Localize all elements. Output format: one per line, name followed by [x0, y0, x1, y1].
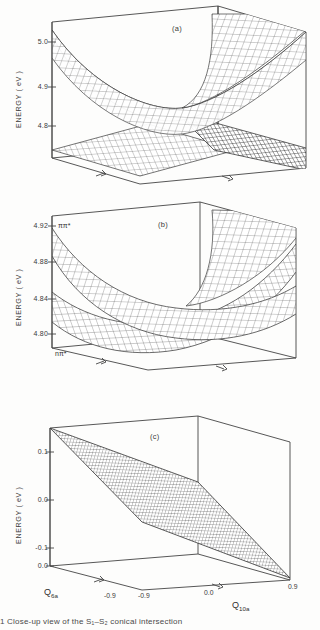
panel-b: ENERGY ( eV ) 4.92 4.88 4.84 4.80 ππ* nπ… [0, 198, 320, 394]
panel-b-state-label-lower: nπ* [55, 350, 66, 357]
x-axis-label-q6a-text: Q [44, 587, 51, 597]
panel-b-ytick-2: 4.84 [18, 295, 48, 302]
figure-conical-intersection: ENERGY ( eV ) 5.0 4.9 4.8 (a) [0, 0, 320, 630]
panel-c-ytick-2: -0.1 [18, 544, 48, 551]
panel-a-xticks [96, 170, 233, 181]
x-axis-label-q10a-text: Q [232, 600, 239, 610]
panel-a-tag: (a) [172, 24, 182, 33]
x-right-tick-0: -0.9 [138, 592, 150, 599]
panel-c: ENERGY ( eV ) 0.1 0.0 -0.1 0.0 (c) [0, 394, 320, 618]
panel-b-ytick-3: 4.80 [18, 330, 48, 337]
panel-a-plot [0, 0, 320, 198]
panel-c-ytick-0: 0.1 [22, 448, 48, 455]
panel-c-plot [0, 394, 320, 618]
x-right-tick-1: 0.0 [204, 589, 213, 596]
panel-c-plane [50, 428, 290, 578]
figure-caption: 1 Close-up view of the S₁–S₂ conical int… [0, 617, 320, 630]
panel-a-ytick-0: 5.0 [24, 38, 48, 45]
panel-a-ytick-2: 4.8 [24, 122, 48, 129]
panel-a: ENERGY ( eV ) 5.0 4.9 4.8 (a) [0, 0, 320, 198]
x-right-tick-2: 0.9 [288, 583, 297, 590]
panel-b-tag: (b) [158, 220, 168, 229]
panel-c-tag: (c) [150, 432, 160, 441]
panel-a-yaxis [48, 22, 56, 158]
x-axis-label-q6a-sub: 6a [51, 592, 58, 599]
x-axis-label-q10a-sub: 10a [239, 605, 249, 612]
panel-a-y-axis-title: ENERGY ( eV ) [14, 70, 23, 128]
x-axis-label-q6a: Q6a [44, 587, 58, 599]
panel-b-ytick-1: 4.88 [18, 258, 48, 265]
panel-c-ytick-1: 0.0 [22, 496, 48, 503]
x-left-tick-0: -0.9 [104, 592, 116, 599]
panel-a-ytick-1: 4.9 [24, 83, 48, 90]
panel-b-ytick-0: 4.92 [18, 222, 48, 229]
panel-b-state-label-upper: ππ* [58, 222, 70, 229]
x-axis-label-q10a: Q10a [232, 600, 249, 612]
panel-c-ytick-3: 0.0 [22, 562, 48, 569]
